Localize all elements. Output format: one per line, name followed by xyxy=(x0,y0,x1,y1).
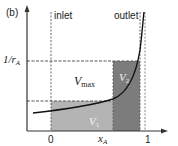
outlet-label: outlet xyxy=(114,10,139,21)
x-tick-0: 0 xyxy=(48,134,54,145)
panel-label: (b) xyxy=(6,7,18,18)
x-axis-arrow-icon xyxy=(161,129,168,134)
inlet-label: inlet xyxy=(54,10,73,21)
x-axis-label: xA xyxy=(97,132,108,146)
reactor-volume-diagram: (b) inlet outlet 1/rA 0 1 xA Vmax V1 V2 xyxy=(0,0,178,146)
y-axis-label: 1/rA xyxy=(3,53,21,67)
vmax-label: Vmax xyxy=(74,74,95,89)
y-axis-arrow-icon xyxy=(25,5,30,12)
region-v2 xyxy=(113,61,140,131)
x-tick-1: 1 xyxy=(145,134,151,145)
